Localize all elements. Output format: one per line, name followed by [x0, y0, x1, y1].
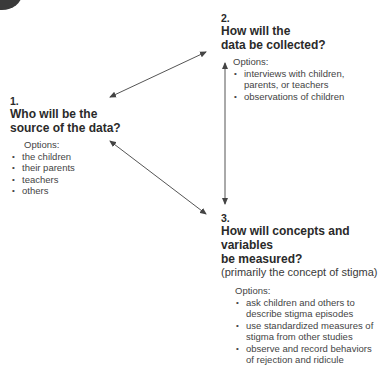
- option-item: others: [11, 185, 121, 197]
- node-2-question-line-2: data be collected?: [221, 38, 344, 52]
- option-item: their parents: [11, 162, 121, 174]
- node-3-subtitle: (primarily the concept of stigma): [221, 266, 390, 279]
- node-1-question-line-2: source of the data?: [10, 121, 121, 135]
- node-1-question-line-1: Who will be the: [10, 107, 121, 121]
- node-2-question-line-1: How will the: [221, 24, 344, 38]
- node-3-number: 3.: [221, 212, 390, 224]
- node-1-options-list: the children their parents teachers othe…: [11, 151, 121, 197]
- node-2-options-list: interviews with children, parents, or te…: [233, 68, 344, 103]
- option-item: teachers: [11, 174, 121, 186]
- node-2: 2. How will the data be collected? Optio…: [221, 12, 344, 102]
- node-3-question-line-1: How will concepts and variables: [221, 224, 390, 252]
- option-item: observe and record behaviors of rejectio…: [235, 343, 375, 366]
- node-1-number: 1.: [10, 95, 121, 107]
- node-2-number: 2.: [221, 12, 344, 24]
- node-1: 1. Who will be the source of the data? O…: [10, 95, 121, 197]
- node-3: 3. How will concepts and variables be me…: [221, 212, 390, 366]
- option-item: ask children and others to describe stig…: [235, 297, 375, 320]
- node-3-options-list: ask children and others to describe stig…: [235, 297, 375, 366]
- node-3-options-label: Options:: [235, 285, 375, 297]
- option-item: observations of children: [233, 91, 344, 103]
- node-3-question-line-2: be measured?: [221, 252, 390, 266]
- option-item: interviews with children, parents, or te…: [233, 68, 344, 91]
- node-1-options-label: Options:: [24, 139, 121, 151]
- option-item: use standardized measures of stigma from…: [235, 320, 375, 343]
- arrow-1-to-3: [110, 141, 206, 214]
- arrow-1-to-2: [110, 52, 206, 97]
- node-2-options-label: Options:: [233, 56, 344, 68]
- option-item: the children: [11, 151, 121, 163]
